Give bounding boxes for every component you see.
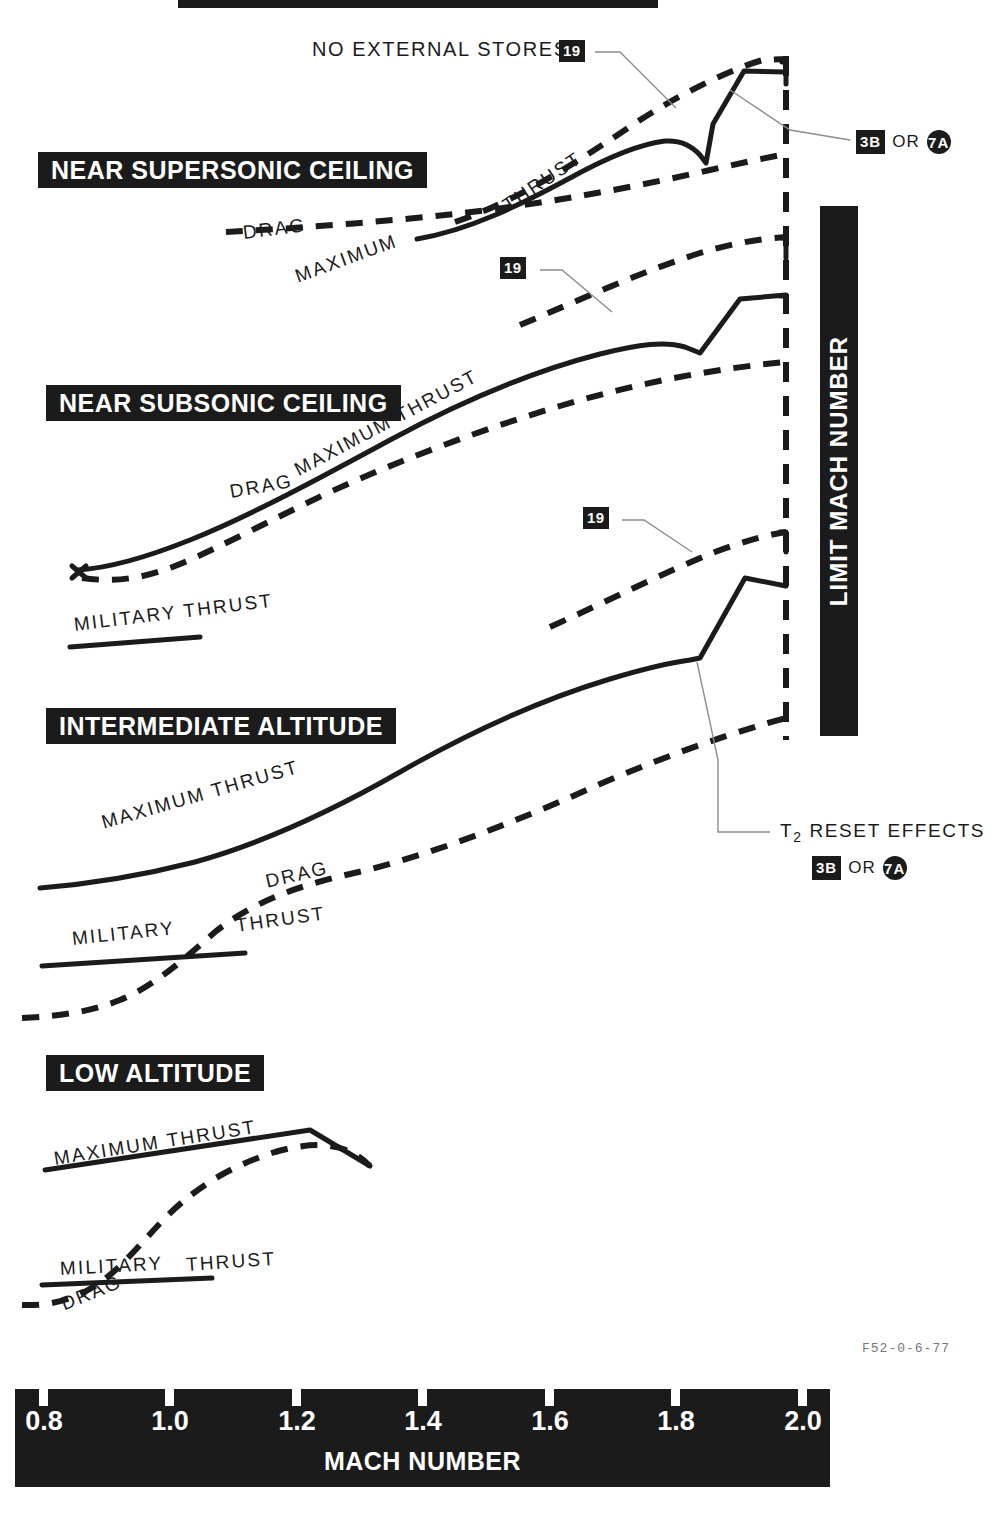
panel-title-label: INTERMEDIATE ALTITUDE xyxy=(59,712,383,741)
badge-3b: 3B xyxy=(856,130,885,154)
curve-label-drag-supersonic: DRAG xyxy=(242,214,308,244)
curve-label-maximum-thrust-subsonic: MAXIMUM THRUST xyxy=(291,365,482,480)
figure-id-code: F52-0-6-77 xyxy=(862,1341,950,1356)
tick-mark-1 xyxy=(165,1389,174,1406)
tick-label-5: 1.8 xyxy=(657,1406,695,1437)
curve-label-military-intermediate: MILITARY xyxy=(71,917,176,950)
subsonic-military-short-segment xyxy=(70,637,200,647)
panel-title-label: LOW ALTITUDE xyxy=(59,1059,251,1088)
badge-19-supersonic: 19 xyxy=(559,40,585,62)
intermediate-upper-limit-cap xyxy=(780,532,786,552)
subsonic-origin-tick xyxy=(72,566,86,578)
curve-label-maximum-thrust-intermediate: MAXIMUM THRUST xyxy=(99,756,302,834)
tick-label-3: 1.4 xyxy=(404,1406,442,1437)
leader-19-subsonic xyxy=(540,270,612,312)
or-text: OR xyxy=(848,858,876,878)
supersonic-solid-limit-cap xyxy=(782,62,786,84)
curve-label-military-thrust-subsonic: MILITARY THRUST xyxy=(73,590,275,636)
limit-mach-number-label: LIMIT MACH NUMBER xyxy=(825,336,853,606)
leader-19-intermediate xyxy=(622,520,692,552)
or-text: OR xyxy=(892,132,920,152)
badge-19-intermediate: 19 xyxy=(583,507,609,529)
t2-letter: T xyxy=(780,820,793,841)
mach-number-scale: 0.8 1.0 1.2 1.4 1.6 1.8 2.0 MACH NUMBER xyxy=(15,1389,830,1487)
low-drag-curve xyxy=(22,1145,370,1305)
subsonic-military-thrust-curve xyxy=(78,295,786,570)
t2-reset-effects-annotation: T2 RESET EFFECTS xyxy=(780,820,985,845)
badge-3b: 3B xyxy=(812,856,841,880)
tick-label-0: 0.8 xyxy=(25,1406,63,1437)
figure-top-banner-label: THRUST AND DRAG CHARACTERISTICS xyxy=(205,0,630,5)
panel-title-near-supersonic-ceiling: NEAR SUPERSONIC CEILING xyxy=(38,152,427,188)
curve-label-thrust-intermediate: THRUST xyxy=(234,903,326,937)
intermediate-upper-thrust-curve xyxy=(550,532,786,627)
leader-no-external-stores xyxy=(595,52,676,108)
badge-7a: 7A xyxy=(883,856,907,880)
limit-mach-number-banner: LIMIT MACH NUMBER xyxy=(820,206,858,736)
tick-mark-3 xyxy=(418,1389,427,1406)
figure-top-banner: THRUST AND DRAG CHARACTERISTICS xyxy=(178,0,658,8)
panel-title-near-subsonic-ceiling: NEAR SUBSONIC CEILING xyxy=(46,385,401,421)
intermediate-military-thrust-curve xyxy=(42,953,245,966)
badge-7a: 7A xyxy=(927,130,951,154)
tick-mark-4 xyxy=(545,1389,554,1406)
panel-title-intermediate-altitude: INTERMEDIATE ALTITUDE xyxy=(46,708,396,744)
no-external-stores-label: NO EXTERNAL STORES xyxy=(312,38,569,61)
subsonic-maximum-thrust-curve xyxy=(520,237,786,325)
tick-mark-5 xyxy=(671,1389,680,1406)
panel-title-label: NEAR SUBSONIC CEILING xyxy=(59,389,388,418)
tick-label-2: 1.2 xyxy=(278,1406,316,1437)
tick-label-4: 1.6 xyxy=(531,1406,569,1437)
curve-label-maximum-thrust-low: MAXIMUM THRUST xyxy=(52,1116,258,1170)
subsonic-solid-limit-cap xyxy=(782,238,786,258)
curve-label-drag-subsonic: DRAG xyxy=(228,470,295,503)
panel-title-low-altitude: LOW ALTITUDE xyxy=(46,1055,264,1091)
leader-3b-7a-supersonic xyxy=(730,90,850,140)
curve-label-drag-intermediate: DRAG xyxy=(264,857,331,893)
tick-label-1: 1.0 xyxy=(151,1406,189,1437)
reference-3b-or-7a-intermediate: 3B OR 7A xyxy=(812,856,907,880)
tick-mark-6 xyxy=(798,1389,807,1406)
reference-3b-or-7a-supersonic: 3B OR 7A xyxy=(856,130,951,154)
supersonic-military-thrust-curve xyxy=(417,71,786,239)
t2-subscript: 2 xyxy=(793,829,802,845)
t2-rest-text: RESET EFFECTS xyxy=(810,820,986,841)
intermediate-drag-curve xyxy=(22,718,786,1018)
panel-title-label: NEAR SUPERSONIC CEILING xyxy=(51,156,414,185)
curve-label-thrust-supersonic: THRUST xyxy=(499,147,586,216)
curve-label-thrust-low: THRUST xyxy=(185,1248,277,1276)
tick-mark-0 xyxy=(39,1389,48,1406)
thrust-drag-figure: THRUST AND DRAG CHARACTERISTICS xyxy=(0,0,1008,1525)
curve-label-maximum-supersonic: MAXIMUM xyxy=(292,230,400,287)
tick-label-6: 2.0 xyxy=(784,1406,822,1437)
leader-t2-reset xyxy=(697,662,770,832)
badge-19-subsonic: 19 xyxy=(500,257,526,279)
tick-mark-2 xyxy=(292,1389,301,1406)
mach-number-axis-title: MACH NUMBER xyxy=(15,1447,830,1476)
